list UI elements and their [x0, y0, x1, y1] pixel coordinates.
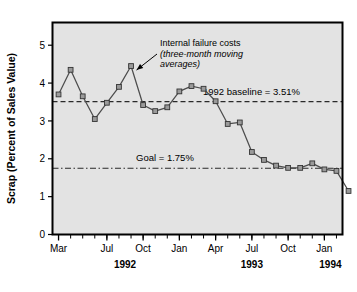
baseline-label: 1992 baseline = 3.51% — [203, 86, 300, 97]
data-point-21 — [310, 161, 315, 166]
data-point-10 — [177, 89, 182, 94]
annotation-line-0: Internal failure costs — [160, 38, 241, 48]
x-tick-label-Jan-7: Jan — [316, 243, 332, 254]
data-point-16 — [249, 150, 254, 155]
year-label-1994: 1994 — [319, 259, 342, 270]
data-point-9 — [165, 105, 170, 110]
x-tick-label-Apr-4: Apr — [208, 243, 224, 254]
data-point-18 — [274, 163, 279, 168]
annotation-line-2: averages) — [160, 59, 200, 69]
x-tick-label-Mar-0: Mar — [50, 243, 68, 254]
y-tick-label-0: 0 — [39, 229, 45, 240]
data-point-20 — [298, 165, 303, 170]
x-tick-label-Jul-5: Jul — [245, 243, 258, 254]
data-point-2 — [80, 94, 85, 99]
data-point-11 — [189, 84, 194, 89]
data-point-6 — [129, 64, 134, 69]
data-point-22 — [322, 167, 327, 172]
data-point-23 — [334, 169, 339, 174]
data-point-14 — [225, 122, 230, 127]
data-point-7 — [141, 103, 146, 108]
data-point-0 — [56, 92, 61, 97]
x-tick-label-Oct-2: Oct — [135, 243, 151, 254]
data-point-15 — [237, 120, 242, 125]
scrap-trend-chart: 012345Scrap (Percent of Sales Value)MarJ… — [0, 0, 357, 292]
goal-label: Goal = 1.75% — [136, 152, 194, 163]
y-tick-label-5: 5 — [39, 40, 45, 51]
y-axis-title: Scrap (Percent of Sales Value) — [5, 53, 17, 204]
data-point-5 — [117, 84, 122, 89]
data-point-8 — [153, 109, 158, 114]
data-point-19 — [286, 165, 291, 170]
data-point-4 — [104, 100, 109, 105]
x-tick-label-Oct-6: Oct — [280, 243, 296, 254]
x-tick-label-Jul-1: Jul — [100, 243, 113, 254]
data-point-24 — [346, 189, 351, 194]
y-tick-label-1: 1 — [39, 191, 45, 202]
x-tick-label-Jan-3: Jan — [171, 243, 187, 254]
data-point-13 — [213, 99, 218, 104]
y-tick-label-3: 3 — [39, 116, 45, 127]
figure-container: 012345Scrap (Percent of Sales Value)MarJ… — [0, 0, 357, 292]
y-tick-label-2: 2 — [39, 153, 45, 164]
data-point-12 — [201, 86, 206, 91]
data-point-3 — [92, 117, 97, 122]
annotation-line-1: (three-month moving — [160, 49, 243, 59]
year-label-1992: 1992 — [114, 259, 137, 270]
y-tick-label-4: 4 — [39, 78, 45, 89]
year-label-1993: 1993 — [241, 259, 264, 270]
data-point-17 — [262, 158, 267, 163]
data-point-1 — [68, 67, 73, 72]
